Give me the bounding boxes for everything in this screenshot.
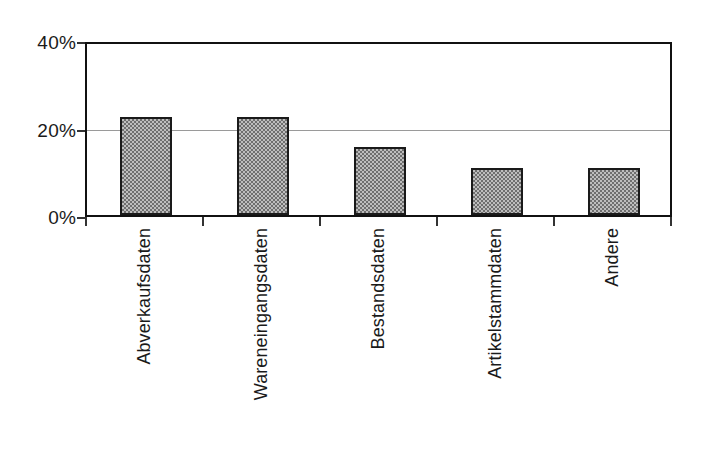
plot-area [85, 42, 672, 217]
bar-slot-1 [87, 44, 204, 215]
bar-slot-3 [321, 44, 438, 215]
bar-abverkaufsdaten[interactable] [120, 117, 172, 215]
y-tick-mark-20 [77, 130, 85, 132]
x-tick-label-wareneingangsdaten: Wareneingangsdaten [252, 228, 270, 400]
x-tick-0 [85, 217, 87, 226]
bar-slot-4 [438, 44, 555, 215]
y-tick-label-20: 20% [0, 121, 76, 140]
bar-bestandsdaten[interactable] [354, 147, 406, 215]
x-tick-4 [553, 217, 555, 226]
x-tick-5 [670, 217, 672, 226]
x-tick-1 [202, 217, 204, 226]
y-tick-mark-40 [77, 42, 85, 44]
bars-layer [87, 44, 670, 215]
y-axis: 40% 20% 0% [0, 0, 76, 449]
x-tick-label-bestandsdaten: Bestandsdaten [369, 228, 387, 349]
x-label-slot-3: Bestandsdaten [319, 228, 436, 428]
y-tick-label-0: 0% [0, 208, 76, 227]
x-label-slot-4: Artikelstammdaten [436, 228, 553, 428]
bar-artikelstammdaten[interactable] [471, 168, 523, 215]
x-tick-label-andere: Andere [603, 228, 621, 287]
x-tick-label-abverkaufsdaten: Abverkaufsdaten [135, 228, 153, 365]
bar-slot-2 [204, 44, 321, 215]
bar-wareneingangsdaten[interactable] [237, 117, 289, 215]
x-tick-2 [319, 217, 321, 226]
x-axis-labels: Abverkaufsdaten Wareneingangsdaten Besta… [85, 228, 672, 428]
x-tick-label-artikelstammdaten: Artikelstammdaten [486, 228, 504, 379]
x-label-slot-2: Wareneingangsdaten [202, 228, 319, 428]
bar-slot-5 [555, 44, 672, 215]
x-tick-3 [436, 217, 438, 226]
y-tick-mark-0 [77, 217, 85, 219]
x-label-slot-5: Andere [553, 228, 670, 428]
x-label-slot-1: Abverkaufsdaten [85, 228, 202, 428]
x-axis-ticks [85, 217, 672, 227]
bar-andere[interactable] [588, 168, 640, 215]
bar-chart: 40% 20% 0% [0, 0, 701, 449]
y-tick-label-40: 40% [0, 33, 76, 52]
